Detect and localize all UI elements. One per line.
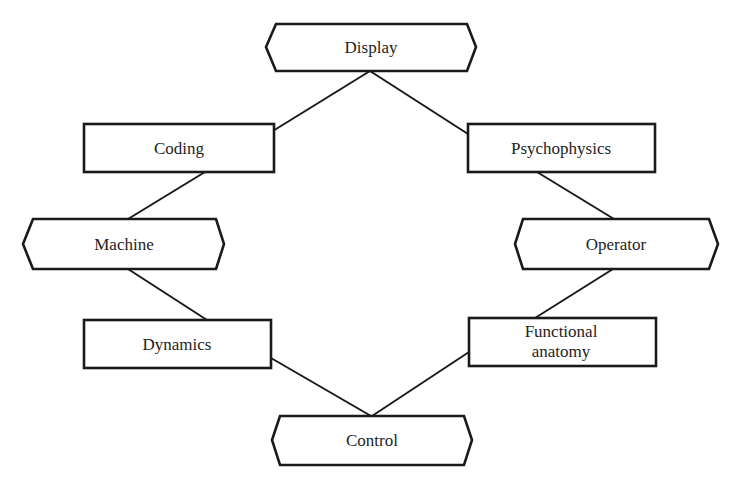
edge-display-coding [268, 71, 370, 134]
node-display: Display [266, 24, 476, 71]
node-psychophysics: Psychophysics [468, 124, 655, 172]
dynamics-label: Dynamics [143, 335, 212, 354]
node-machine: Machine [23, 219, 224, 269]
edge-display-psychophysics [370, 71, 468, 134]
man-machine-system-diagram: Display Coding Psychophysics Machine Ope… [0, 0, 735, 489]
operator-label: Operator [586, 235, 647, 254]
node-dynamics: Dynamics [84, 320, 271, 368]
edge-psychophysics-operator [537, 172, 614, 219]
node-coding: Coding [84, 124, 274, 172]
edge-coding-machine [128, 172, 205, 219]
edge-functional-anatomy-control [372, 352, 469, 416]
edge-dynamics-control [271, 358, 371, 416]
node-operator: Operator [515, 219, 718, 269]
control-label: Control [346, 431, 398, 450]
display-label: Display [345, 38, 398, 57]
edge-machine-dynamics [128, 269, 207, 320]
functional-anatomy-label-line2: anatomy [532, 342, 591, 361]
node-functional-anatomy: Functional anatomy [469, 318, 656, 366]
psychophysics-label: Psychophysics [511, 139, 611, 158]
node-control: Control [272, 416, 472, 465]
coding-label: Coding [154, 139, 205, 158]
machine-label: Machine [94, 235, 153, 254]
edge-operator-functional-anatomy [535, 269, 613, 318]
functional-anatomy-label-line1: Functional [525, 322, 598, 341]
